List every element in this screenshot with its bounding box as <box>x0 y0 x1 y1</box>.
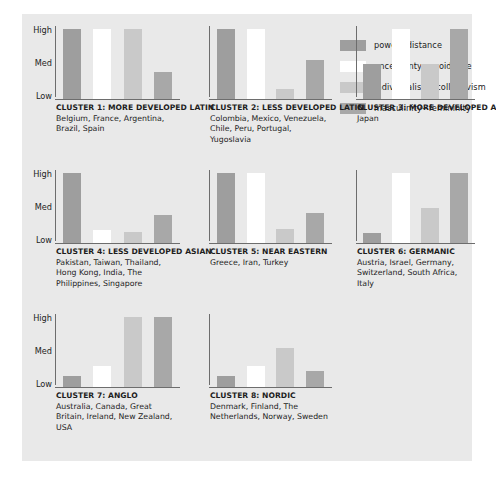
y-axis-tick-label: Med <box>35 203 52 211</box>
bar <box>124 317 142 387</box>
x-axis-line <box>356 243 475 244</box>
y-axis-tick-label: Med <box>35 347 52 355</box>
panel-caption: CLUSTER 3: MORE DEVELOPED ASIANJapan <box>329 103 475 124</box>
bar <box>154 215 172 243</box>
y-axis-line <box>209 314 210 385</box>
x-axis-line <box>55 99 180 100</box>
x-axis-line <box>55 243 180 244</box>
y-axis-line <box>55 26 56 97</box>
y-axis-tick-label: High <box>33 26 52 34</box>
bar <box>124 29 142 99</box>
bar <box>276 229 294 243</box>
bar <box>63 29 81 99</box>
panel-members: Belgium, France, Argentina, Brazil, Spai… <box>56 114 180 135</box>
y-axis-labels <box>182 26 209 100</box>
cluster-panel: HighMedLowCLUSTER 4: LESS DEVELOPED ASIA… <box>28 170 180 289</box>
y-axis-labels <box>329 170 356 244</box>
panel-caption: CLUSTER 4: LESS DEVELOPED ASIANPakistan,… <box>28 247 180 289</box>
bar <box>392 173 410 243</box>
y-axis-tick-label: High <box>33 314 52 322</box>
axes <box>356 26 475 100</box>
y-axis-tick-label: Low <box>36 92 52 100</box>
bar <box>450 173 468 243</box>
axes <box>209 314 332 388</box>
y-axis-tick-label: Low <box>36 380 52 388</box>
bar <box>421 64 439 99</box>
panel-title: CLUSTER 6: GERMANIC <box>357 247 475 258</box>
axes <box>55 314 180 388</box>
panel-caption: CLUSTER 1: MORE DEVELOPED LATINBelgium, … <box>28 103 180 135</box>
panel-caption: CLUSTER 6: GERMANICAustria, Israel, Germ… <box>329 247 475 289</box>
bar <box>217 376 235 387</box>
bar <box>421 208 439 243</box>
cluster-panel: CLUSTER 2: LESS DEVELOPED LATINColombia,… <box>182 26 332 145</box>
panel-title: CLUSTER 5: NEAR EASTERN <box>210 247 332 258</box>
bar-group <box>358 173 473 243</box>
bar <box>306 371 324 386</box>
plot-area <box>182 26 332 100</box>
bar <box>93 230 111 243</box>
cluster-panel: HighMedLowCLUSTER 7: ANGLOAustralia, Can… <box>28 314 180 433</box>
bar-group <box>57 29 178 99</box>
bar <box>276 89 294 99</box>
y-axis-line <box>209 26 210 97</box>
panel-members: Australia, Canada, Great Britain, Irelan… <box>56 402 180 434</box>
bar <box>154 317 172 387</box>
x-axis-line <box>356 99 475 100</box>
bar <box>217 29 235 99</box>
bar-group <box>57 317 178 387</box>
x-axis-line <box>209 387 332 388</box>
bar <box>363 64 381 99</box>
panel-caption: CLUSTER 2: LESS DEVELOPED LATINColombia,… <box>182 103 332 145</box>
axes <box>356 170 475 244</box>
panel-title: CLUSTER 2: LESS DEVELOPED LATIN <box>210 103 332 114</box>
bar <box>247 29 265 99</box>
y-axis-line <box>356 170 357 241</box>
bar <box>154 72 172 99</box>
figure-panel: power−distanceuncertainty−avoidanceindiv… <box>22 14 472 461</box>
cluster-grid: HighMedLowCLUSTER 1: MORE DEVELOPED LATI… <box>22 14 472 461</box>
y-axis-labels: HighMedLow <box>28 26 55 100</box>
plot-area <box>182 314 332 388</box>
bar <box>63 376 81 387</box>
axes <box>209 26 332 100</box>
plot-area: HighMedLow <box>28 26 180 100</box>
cluster-panel: HighMedLowCLUSTER 1: MORE DEVELOPED LATI… <box>28 26 180 135</box>
panel-title: CLUSTER 7: ANGLO <box>56 391 180 402</box>
panel-title: CLUSTER 1: MORE DEVELOPED LATIN <box>56 103 180 114</box>
panel-title: CLUSTER 4: LESS DEVELOPED ASIAN <box>56 247 180 258</box>
y-axis-tick-label: High <box>33 170 52 178</box>
bar <box>276 348 294 387</box>
bar-group <box>57 173 178 243</box>
bar <box>247 366 265 387</box>
panel-title: CLUSTER 3: MORE DEVELOPED ASIAN <box>357 103 475 114</box>
axes <box>55 170 180 244</box>
bar-group <box>211 317 330 387</box>
bar <box>306 213 324 242</box>
y-axis-tick-label: Med <box>35 59 52 67</box>
panel-caption: CLUSTER 5: NEAR EASTERNGreece, Iran, Tur… <box>182 247 332 268</box>
bar <box>93 29 111 99</box>
bar <box>93 366 111 387</box>
bar <box>63 173 81 243</box>
axes <box>209 170 332 244</box>
x-axis-line <box>55 387 180 388</box>
plot-area <box>182 170 332 244</box>
bar-group <box>211 173 330 243</box>
bar-group <box>358 29 473 99</box>
y-axis-line <box>356 26 357 97</box>
y-axis-line <box>209 170 210 241</box>
bar <box>363 233 381 243</box>
bar-group <box>211 29 330 99</box>
panel-members: Denmark, Finland, The Netherlands, Norwa… <box>210 402 332 423</box>
y-axis-labels <box>329 26 356 100</box>
plot-area: HighMedLow <box>28 170 180 244</box>
panel-members: Colombia, Mexico, Venezuela, Chile, Peru… <box>210 114 332 146</box>
x-axis-line <box>209 99 332 100</box>
y-axis-tick-label: Low <box>36 236 52 244</box>
y-axis-labels <box>182 170 209 244</box>
y-axis-line <box>55 314 56 385</box>
cluster-panel: CLUSTER 6: GERMANICAustria, Israel, Germ… <box>329 170 475 289</box>
x-axis-line <box>209 243 332 244</box>
plot-area: HighMedLow <box>28 314 180 388</box>
